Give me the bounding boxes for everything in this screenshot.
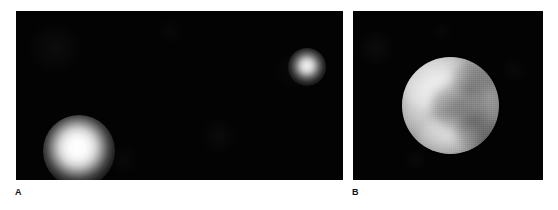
figure-root: A B: [0, 0, 558, 210]
panel-a-image: [16, 11, 343, 180]
charon-point-source: [288, 48, 326, 86]
resolved-disk: [402, 57, 499, 154]
panel-a-caption: A: [15, 187, 22, 198]
panel-a-noise-texture: [16, 11, 343, 180]
resolved-disk-wrapper: [402, 57, 499, 154]
panel-b-image: [353, 11, 543, 180]
disk-limb-falloff: [402, 57, 499, 154]
pluto-point-source: [43, 115, 115, 180]
panel-b-caption: B: [352, 187, 359, 198]
